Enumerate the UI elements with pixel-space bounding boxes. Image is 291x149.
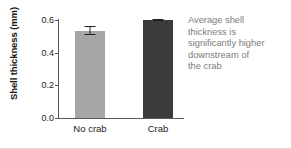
bar-no-crab [75,20,105,118]
bar-crab [143,20,173,118]
y-tick-mark [55,53,58,54]
y-axis-line [58,19,59,119]
annotation-text: Average shell thickness is significantly… [188,15,288,73]
error-bar-cap-bottom [153,20,164,21]
annotation-line-5: the crab [188,61,288,73]
y-axis-title: Shell thickness (mm) [8,0,19,109]
plot-area: 0.0 0.2 0.4 0.6 [58,19,184,119]
annotation-line-3: significantly higher [188,38,288,50]
bar-rect [143,20,173,118]
error-bar-cap-bottom [85,34,96,35]
y-tick-label-1: 0.2 [41,80,54,90]
bar-rect [75,31,105,118]
x-axis-line [58,118,184,119]
annotation-line-4: downstream of [188,50,288,62]
y-tick-label-3: 0.6 [41,15,54,25]
x-tick-label-crab: Crab [128,123,188,134]
y-tick-mark [55,20,58,21]
annotation-line-1: Average shell [188,15,288,27]
annotation-line-2: thickness is [188,27,288,39]
y-tick-label-0: 0.0 [41,113,54,123]
bar-chart-figure: Shell thickness (mm) 0.0 0.2 0.4 0.6 [0,0,291,149]
y-tick-mark [55,118,58,119]
y-tick-mark [55,85,58,86]
x-tick-label-no-crab: No crab [60,123,120,134]
figure-bottom-edge [0,148,291,149]
error-bar-cap-top [85,26,96,27]
y-tick-label-2: 0.4 [41,48,54,58]
